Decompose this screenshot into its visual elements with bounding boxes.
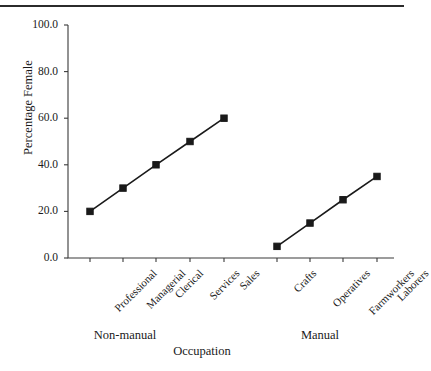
y-axis-title: Percentage Female (21, 28, 36, 188)
y-tick-label-0: 0.0 (12, 252, 58, 264)
group-label-non-manual: Non-manual (60, 328, 190, 343)
group-label-manual: Manual (255, 328, 385, 343)
y-tick-label-20: 20.0 (12, 205, 58, 217)
x-axis-title: Occupation (0, 344, 404, 359)
